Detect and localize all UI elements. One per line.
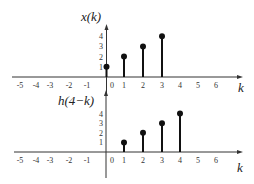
x-tick-label: 2: [141, 156, 145, 165]
x-axis-label: k: [237, 160, 243, 175]
stem-marker: [177, 111, 183, 117]
x-tick-label: 5: [196, 156, 200, 165]
x-axis-label: k: [238, 80, 244, 95]
x-tick-label: 4: [178, 81, 182, 90]
chart-title: x(k): [80, 9, 101, 24]
stem-plot-figure: x(k)k-5-4-3-2-101234561234h(4−k)k-5-4-3-…: [0, 0, 254, 184]
x-tick-label: -3: [47, 81, 54, 90]
x-tick-label: -5: [17, 81, 24, 90]
chart-title: h(4−k): [58, 93, 94, 108]
stem-marker: [121, 139, 127, 145]
x-tick-label: -4: [33, 81, 40, 90]
x-tick-label: -3: [47, 156, 54, 165]
stem-marker: [140, 43, 146, 49]
x-tick-label: 0: [110, 81, 114, 90]
stem-plot-1: x(k)k-5-4-3-2-101234561234: [12, 9, 244, 95]
x-tick-label: -2: [66, 156, 73, 165]
stem-marker: [159, 33, 165, 39]
x-tick-label: 4: [178, 156, 182, 165]
y-tick-label: 3: [99, 42, 103, 51]
x-tick-label: 6: [214, 81, 218, 90]
x-tick-label: 3: [160, 81, 164, 90]
x-tick-label: 5: [196, 81, 200, 90]
y-axis-arrow-icon: [104, 90, 108, 96]
x-tick-label: -5: [17, 156, 24, 165]
x-tick-label: 3: [160, 156, 164, 165]
stem-marker: [140, 130, 146, 136]
x-tick-label: -1: [84, 81, 91, 90]
x-tick-label: 1: [122, 156, 126, 165]
x-axis-arrow-icon: [237, 150, 243, 154]
x-tick-label: 2: [141, 81, 145, 90]
x-tick-label: -4: [33, 156, 40, 165]
y-tick-label: 3: [99, 119, 103, 128]
y-tick-label: 2: [99, 129, 103, 138]
y-tick-label: 1: [99, 63, 103, 72]
y-tick-label: 1: [99, 138, 103, 147]
x-tick-label: -1: [84, 156, 91, 165]
y-tick-label: 4: [99, 32, 103, 41]
stem-plot-2: h(4−k)k-5-4-3-2-101234561234: [14, 90, 243, 178]
x-tick-label: 6: [214, 156, 218, 165]
stem-marker: [104, 64, 110, 70]
y-tick-label: 4: [99, 110, 103, 119]
stem-marker: [159, 120, 165, 126]
x-axis-arrow-icon: [237, 75, 243, 79]
x-tick-label: 0: [110, 156, 114, 165]
x-tick-label: -2: [66, 81, 73, 90]
y-axis-arrow-icon: [105, 24, 109, 30]
stem-marker: [121, 54, 127, 60]
x-tick-label: 1: [122, 81, 126, 90]
y-tick-label: 2: [99, 53, 103, 62]
